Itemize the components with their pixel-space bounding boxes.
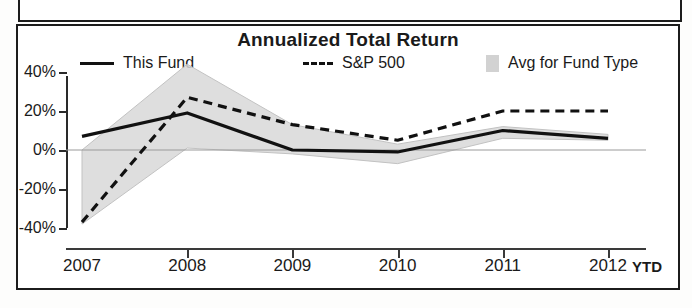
x-axis-tick-label: 2009	[273, 256, 311, 276]
x-axis-tick-label: 2012	[589, 256, 627, 276]
legend-label-sp500: S&P 500	[342, 54, 405, 72]
page-edge-strip	[18, 0, 682, 22]
x-axis-tick-label: 2011	[485, 256, 522, 276]
solid-line-icon	[80, 62, 114, 65]
gray-square-icon	[486, 55, 499, 72]
x-axis	[66, 248, 646, 250]
legend-item-avg-fund-type: Avg for Fund Type	[486, 54, 638, 72]
y-axis-labels: 40%20%0%-20%-40%	[0, 64, 62, 244]
plot-area	[66, 72, 646, 228]
series-svg	[66, 72, 646, 228]
legend-item-this-fund: This Fund	[80, 54, 194, 72]
chart-title: Annualized Total Return	[18, 29, 678, 51]
y-axis-tick-label: -40%	[19, 219, 56, 237]
x-axis-tick-label: 2008	[168, 256, 206, 276]
x-axis-tick-label: 2010	[379, 256, 417, 276]
y-axis-tick-label: 40%	[24, 63, 56, 81]
x-axis-ytd-label: YTD	[632, 258, 662, 275]
y-axis-tick-label: 20%	[24, 102, 56, 120]
y-axis-tick-label: 0%	[33, 141, 56, 159]
y-axis-tick	[59, 228, 67, 230]
x-axis-labels: 200720082009201020112012YTD	[0, 256, 692, 282]
y-axis-tick-label: -20%	[19, 180, 56, 198]
dashed-line-icon	[303, 62, 333, 65]
x-axis-tick-label: 2007	[63, 256, 101, 276]
chart-screenshot: Annualized Total Return This Fund S&P 50…	[0, 0, 692, 308]
legend-item-sp500: S&P 500	[303, 54, 405, 72]
legend-label-avg-fund-type: Avg for Fund Type	[508, 54, 638, 72]
avg-fund-type-band	[82, 64, 608, 224]
